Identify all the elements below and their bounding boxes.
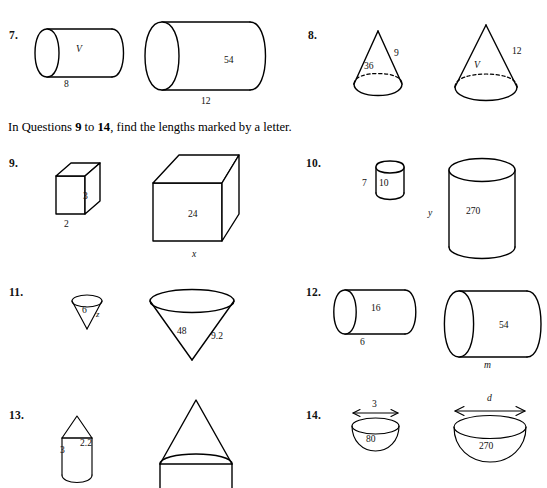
label-q12-large-base: m bbox=[484, 360, 491, 370]
figure-q10-large-cylinder bbox=[440, 155, 524, 265]
label-q14-large-body: 270 bbox=[479, 441, 493, 451]
figure-q11-small-inverted-cone bbox=[66, 293, 108, 335]
figure-q9-large-cube bbox=[126, 150, 242, 250]
label-q10-small-body: 10 bbox=[379, 178, 389, 188]
instruction-suffix: , find the lengths marked by a letter. bbox=[110, 120, 292, 134]
figure-q14-large-bowl bbox=[448, 398, 538, 472]
label-q11-small-slant: z bbox=[96, 310, 99, 319]
figure-q7-small-cylinder bbox=[33, 24, 129, 86]
instruction-prefix: In Questions bbox=[8, 120, 75, 134]
question-number-13: 13. bbox=[9, 409, 24, 421]
figure-q8-large-cone bbox=[447, 22, 527, 104]
label-q11-small-body: 6 bbox=[82, 305, 87, 315]
label-q7-small-base: 8 bbox=[64, 79, 69, 89]
figure-q13-large-cone-on-cylinder bbox=[143, 396, 255, 488]
label-q7-large-body: 54 bbox=[224, 55, 234, 65]
label-q13-small-side: 2.2 bbox=[80, 438, 92, 448]
question-number-12: 12. bbox=[306, 286, 321, 298]
label-q14-large-width: d bbox=[487, 393, 492, 403]
question-number-10: 10. bbox=[306, 157, 321, 169]
label-q9-large-base: x bbox=[192, 249, 196, 259]
label-q8-small-slant: 9 bbox=[394, 48, 399, 58]
label-q7-small-body: V bbox=[76, 44, 82, 54]
label-q10-large-height: y bbox=[428, 208, 432, 218]
label-q13-small-body: 3 bbox=[60, 445, 65, 455]
question-number-14: 14. bbox=[306, 409, 321, 421]
label-q11-large-slant: 9.2 bbox=[211, 331, 223, 341]
question-number-7: 7. bbox=[9, 29, 18, 41]
label-q12-small-body: 16 bbox=[371, 303, 381, 313]
label-q12-large-body: 54 bbox=[499, 320, 509, 330]
instruction-text: In Questions 9 to 14, find the lengths m… bbox=[8, 120, 292, 135]
figure-q12-small-cylinder bbox=[331, 285, 421, 343]
label-q10-large-body: 270 bbox=[466, 206, 480, 216]
label-q11-large-body: 48 bbox=[177, 326, 187, 336]
label-q14-small-body: 80 bbox=[366, 434, 376, 444]
figure-q7-large-cylinder bbox=[142, 17, 270, 99]
figure-q10-small-cylinder bbox=[372, 159, 410, 205]
instruction-middle: to bbox=[81, 120, 97, 134]
figure-q8-small-cone bbox=[345, 28, 411, 98]
label-q10-small-height: 7 bbox=[362, 178, 367, 188]
question-number-8: 8. bbox=[308, 29, 317, 41]
label-q8-large-slant: 12 bbox=[512, 46, 522, 56]
label-q12-small-base: 6 bbox=[360, 337, 365, 347]
label-q7-large-base: 12 bbox=[201, 96, 211, 106]
label-q14-small-width: 3 bbox=[372, 399, 377, 409]
figure-q14-small-bowl bbox=[344, 403, 410, 457]
label-q8-large-body: V bbox=[474, 60, 480, 70]
label-q9-small-face: 3 bbox=[83, 191, 88, 201]
question-number-9: 9. bbox=[9, 157, 18, 169]
label-q8-small-body: 36 bbox=[364, 61, 374, 71]
figure-q12-large-cylinder bbox=[441, 287, 545, 367]
figure-q11-large-inverted-cone bbox=[143, 287, 243, 367]
label-q9-large-face: 24 bbox=[188, 209, 198, 219]
question-number-11: 11. bbox=[9, 286, 23, 298]
instruction-last-question: 14 bbox=[98, 120, 111, 134]
label-q9-small-base: 2 bbox=[64, 219, 69, 229]
figure-q13-small-cone-on-cylinder bbox=[42, 413, 100, 486]
